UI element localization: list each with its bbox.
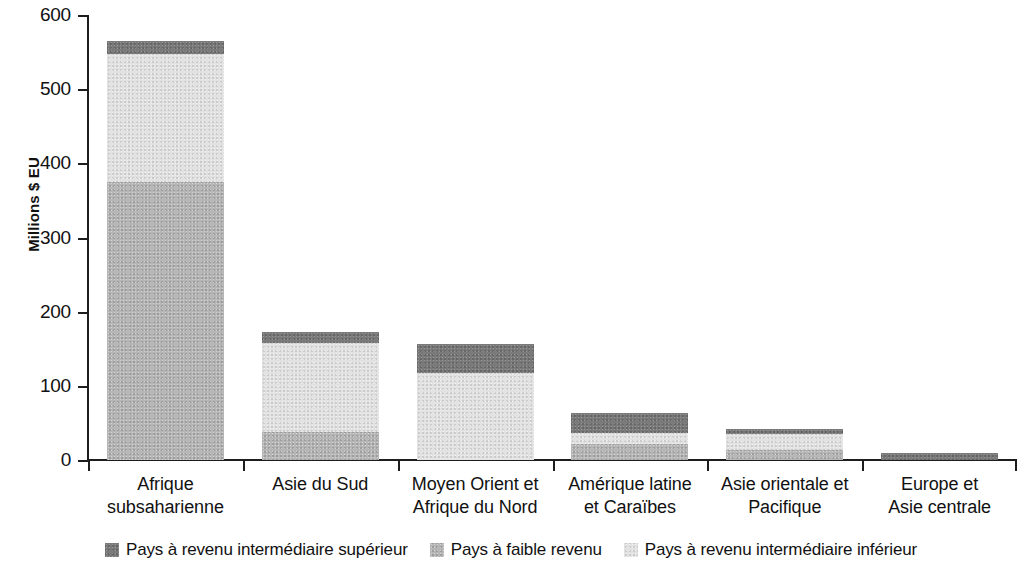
x-axis-label-line: Afrique: [82, 473, 249, 496]
x-tick-mark: [553, 461, 555, 471]
bar-segment-lower-middle: [417, 373, 534, 460]
y-tick-mark: [78, 15, 89, 17]
bar-stack: [262, 332, 379, 460]
legend-item[interactable]: Pays à revenu intermédiaire supérieur: [105, 540, 408, 560]
bar-segment-low: [107, 182, 224, 460]
y-tick-label: 300: [0, 228, 71, 247]
x-tick-mark: [707, 461, 709, 471]
bar-segment-lower-middle: [571, 433, 688, 444]
chart-legend: Pays à revenu intermédiaire supérieurPay…: [0, 540, 1022, 560]
bar-segment-upper-middle: [107, 41, 224, 54]
x-axis-label: Asie orientale etPacifique: [701, 473, 868, 519]
x-axis-label: Asie du Sud: [237, 473, 404, 496]
y-tick-label: 0: [0, 450, 71, 469]
bar-segment-upper-middle: [571, 413, 688, 433]
x-axis-label-line: et Caraïbes: [547, 496, 714, 519]
x-axis-label-line: Europe et: [856, 473, 1022, 496]
bar-stack: [881, 453, 998, 460]
x-tick-mark: [243, 461, 245, 471]
y-tick-label: 200: [0, 302, 71, 321]
y-tick-mark: [78, 163, 89, 165]
x-tick-mark: [862, 461, 864, 471]
bar-segment-low: [571, 444, 688, 460]
x-axis-label-line: subsaharienne: [82, 496, 249, 519]
x-tick-mark: [1015, 461, 1017, 471]
legend-item[interactable]: Pays à faible revenu: [430, 540, 602, 560]
x-axis-label: Afriquesubsaharienne: [82, 473, 249, 519]
y-tick-label: 100: [0, 376, 71, 395]
y-tick-mark: [78, 312, 89, 314]
bar-stack: [726, 429, 843, 460]
y-tick-label: 600: [0, 5, 71, 24]
legend-label: Pays à revenu intermédiaire inférieur: [645, 540, 917, 560]
legend-swatch-icon: [430, 543, 444, 557]
bar-segment-lower-middle: [107, 54, 224, 182]
bar-segment-lower-middle: [262, 343, 379, 432]
y-tick-mark: [78, 89, 89, 91]
x-axis-label: Amérique latineet Caraïbes: [547, 473, 714, 519]
bar-segment-lower-middle: [726, 434, 843, 450]
legend-item[interactable]: Pays à revenu intermédiaire inférieur: [624, 540, 917, 560]
bar-segment-low: [726, 450, 843, 460]
legend-label: Pays à revenu intermédiaire supérieur: [126, 540, 408, 560]
x-axis-label-line: Pacifique: [701, 496, 868, 519]
y-tick-mark: [78, 386, 89, 388]
x-tick-mark: [88, 461, 90, 471]
bar-segment-upper-middle: [417, 344, 534, 373]
x-axis-label-line: Asie orientale et: [701, 473, 868, 496]
x-axis-label: Moyen Orient etAfrique du Nord: [392, 473, 559, 519]
y-tick-label: 400: [0, 153, 71, 172]
bar-stack: [107, 41, 224, 460]
y-tick-label: 500: [0, 79, 71, 98]
x-axis-label-line: Afrique du Nord: [392, 496, 559, 519]
legend-swatch-icon: [624, 543, 638, 557]
bar-stack: [417, 344, 534, 460]
bar-segment-upper-middle: [881, 453, 998, 460]
x-axis-label: Europe etAsie centrale: [856, 473, 1022, 519]
x-axis-label-line: Asie du Sud: [237, 473, 404, 496]
x-tick-mark: [398, 461, 400, 471]
legend-swatch-icon: [105, 543, 119, 557]
bar-stack: [571, 413, 688, 460]
legend-label: Pays à faible revenu: [451, 540, 602, 560]
bar-segment-low: [262, 432, 379, 460]
stacked-bar-chart: Millions $ EU 0100200300400500600 Afriqu…: [0, 0, 1022, 570]
x-axis-label-line: Asie centrale: [856, 496, 1022, 519]
bar-segment-upper-middle: [262, 332, 379, 342]
x-axis-label-line: Amérique latine: [547, 473, 714, 496]
y-axis-title: Millions $ EU: [25, 120, 42, 290]
x-axis-label-line: Moyen Orient et: [392, 473, 559, 496]
y-tick-mark: [78, 238, 89, 240]
